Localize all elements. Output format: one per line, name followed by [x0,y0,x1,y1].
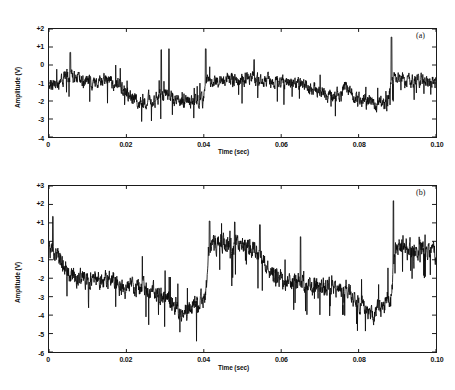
y-tick-label: -4 [38,312,44,319]
y-tick-label: -2 [38,98,44,105]
y-tick-label: +3 [36,182,44,189]
y-axis-title-a: Amplitude (V) [14,67,21,108]
x-axis-title-b: Time (sec) [218,364,249,371]
y-tick-label: -1 [38,256,44,263]
x-tick-label: 0.10 [425,356,449,363]
x-tick-label: 0.04 [192,356,216,363]
y-tick-label: +2 [36,200,44,207]
y-axis-ticks-a: +2+10-1-2-3-4 [18,28,44,138]
signal-trace [49,201,436,341]
y-tick-label: +1 [36,219,44,226]
panel-label-b: (b) [416,188,425,197]
y-tick-label: +1 [36,43,44,50]
y-tick-label: -1 [38,80,44,87]
panel-label-a: (a) [416,31,425,40]
x-tick-label: 0 [36,141,60,148]
x-tick-label: 0.04 [192,141,216,148]
x-tick-label: 0.06 [269,141,293,148]
panel-b: +3+2+10-1-2-3-4-5-6 00.020.040.060.080.1… [0,160,455,390]
x-tick-label: 0.06 [269,356,293,363]
waveform-plot-a [49,29,436,137]
x-tick-label: 0.02 [114,356,138,363]
y-axis-title-b: Amplitude (V) [14,262,21,303]
y-tick-label: -3 [38,116,44,123]
y-tick-label: 0 [40,61,44,68]
y-tick-label: -3 [38,294,44,301]
x-axis-title-a: Time (sec) [218,148,249,155]
waveform-plot-b [49,186,436,352]
y-tick-label: 0 [40,238,44,245]
x-tick-label: 0.02 [114,141,138,148]
y-axis-ticks-b: +3+2+10-1-2-3-4-5-6 [18,185,44,353]
y-tick-label: +2 [36,25,44,32]
x-tick-label: 0.08 [347,356,371,363]
tick-marks [49,186,436,352]
x-tick-label: 0.08 [347,141,371,148]
y-tick-label: -5 [38,331,44,338]
plot-area-a [48,28,437,138]
x-tick-label: 0.10 [425,141,449,148]
panel-a: +2+10-1-2-3-4 00.020.040.060.080.10 Time… [0,0,455,165]
signal-trace [49,37,436,121]
figure-container: +2+10-1-2-3-4 00.020.040.060.080.10 Time… [0,0,455,390]
x-tick-label: 0 [36,356,60,363]
plot-area-b [48,185,437,353]
y-tick-label: -2 [38,275,44,282]
